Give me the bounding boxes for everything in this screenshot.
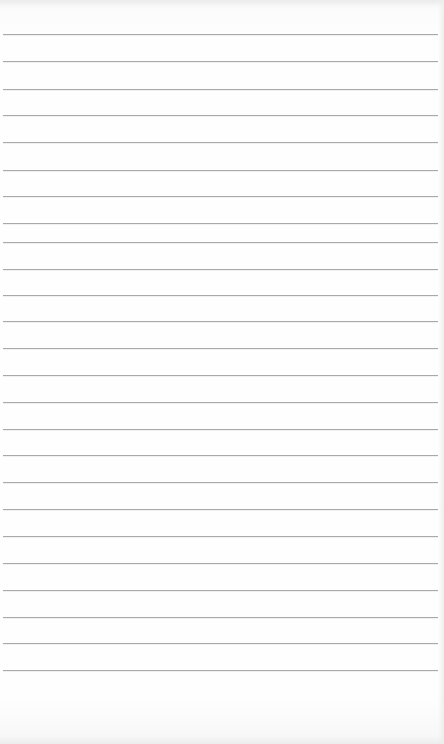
ruled-line	[3, 375, 438, 376]
ruled-line	[3, 223, 438, 224]
ruled-line	[3, 617, 438, 618]
ruled-line	[3, 482, 438, 483]
ruled-line	[3, 295, 438, 296]
ruled-line	[3, 34, 438, 35]
page-right-edge	[438, 0, 444, 744]
ruled-line	[3, 670, 438, 671]
ruled-line	[3, 142, 438, 143]
ruled-line	[3, 590, 438, 591]
ruled-line	[3, 196, 438, 197]
ruled-line	[3, 429, 438, 430]
ruled-line	[3, 402, 438, 403]
ruled-line	[3, 509, 438, 510]
ruled-line	[3, 115, 438, 116]
ruled-line	[3, 242, 438, 243]
ruled-line	[3, 348, 438, 349]
ruled-line	[3, 61, 438, 62]
ruled-line	[3, 269, 438, 270]
ruled-line	[3, 563, 438, 564]
notepad-page	[0, 0, 444, 744]
page-bottom-edge	[0, 736, 444, 744]
ruled-line	[3, 536, 438, 537]
page-top-edge	[0, 0, 444, 6]
ruled-line	[3, 89, 438, 90]
ruled-line	[3, 643, 438, 644]
ruled-line	[3, 170, 438, 171]
ruled-line	[3, 455, 438, 456]
ruled-line	[3, 321, 438, 322]
